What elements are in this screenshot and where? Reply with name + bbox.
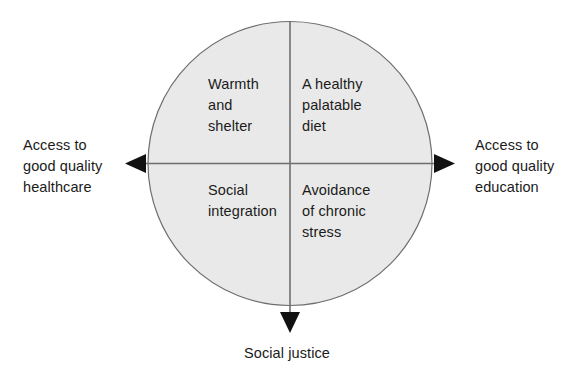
diagram-canvas: Warmth and shelter A healthy palatable d…	[0, 0, 574, 375]
axis-label-right-education: Access to good quality education	[475, 135, 574, 198]
quadrant-label-top-right: A healthy palatable diet	[302, 74, 398, 137]
arrow-left-icon	[125, 154, 146, 173]
quadrant-label-top-left: Warmth and shelter	[208, 74, 300, 137]
arrow-down-icon	[280, 312, 300, 333]
arrow-right-icon	[434, 154, 455, 173]
quadrant-label-bottom-left: Social integration	[208, 180, 304, 222]
axis-label-left-healthcare: Access to good quality healthcare	[23, 135, 127, 198]
axis-label-bottom-social-justice: Social justice	[0, 343, 574, 364]
quadrant-label-bottom-right: Avoidance of chronic stress	[302, 180, 400, 243]
